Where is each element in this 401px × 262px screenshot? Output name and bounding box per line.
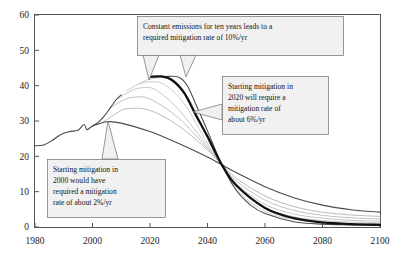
- x-tick-label-1980: 1980: [26, 236, 45, 246]
- annotation-start-2020-line-3: mitigation rate of: [228, 104, 281, 113]
- annotation-start-2000-line-2: 2000 would have: [53, 176, 106, 185]
- x-tick-label-2000: 2000: [83, 236, 102, 246]
- annotation-start-2000-line-3: required a mitigation: [53, 187, 117, 196]
- annotation-constant-emissions-line-1: Constant emissions for ten years leads t…: [143, 22, 273, 31]
- y-tick-label-50: 50: [20, 46, 30, 56]
- y-tick-label-40: 40: [20, 81, 30, 91]
- y-tick-label-20: 20: [20, 152, 30, 162]
- annotation-start-2020-line-4: about 6%/yr: [228, 115, 266, 124]
- annotation-constant-emissions-line-2: required mitigation rate of 10%/yr: [143, 33, 248, 42]
- x-tick-label-2040: 2040: [198, 236, 217, 246]
- x-tick-label-2060: 2060: [256, 236, 275, 246]
- y-tick-label-60: 60: [20, 10, 30, 20]
- annotation-start-2000-line-4: rate of about 2%/yr: [53, 198, 112, 207]
- annotation-start-2020-line-2: 2020 will require a: [228, 93, 286, 102]
- y-tick-label-0: 0: [24, 222, 29, 232]
- y-tick-label-10: 10: [20, 187, 30, 197]
- x-tick-label-2080: 2080: [313, 236, 332, 246]
- annotation-start-2020-line-1: Starting mitigation in: [228, 82, 293, 91]
- emissions-mitigation-chart: 0102030405060 19802000202020402060208021…: [0, 0, 401, 262]
- chart-canvas: 0102030405060 19802000202020402060208021…: [0, 0, 401, 262]
- x-tick-label-2100: 2100: [371, 236, 390, 246]
- x-tick-label-2020: 2020: [141, 236, 160, 246]
- y-tick-label-30: 30: [20, 116, 30, 126]
- annotation-start-2000-line-1: Starting mitigation in: [53, 165, 118, 174]
